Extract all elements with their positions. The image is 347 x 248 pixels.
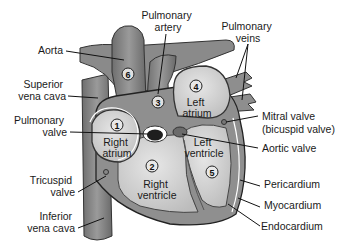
svg-text:5: 5	[209, 168, 214, 178]
mitral-valve-dot	[222, 120, 227, 125]
label-inferior-vena-cava: Inferior vena cava	[27, 210, 75, 234]
number-marker-4: 4	[190, 80, 202, 92]
label-pericardium: Pericardium	[264, 178, 320, 190]
number-marker-5: 5	[206, 166, 218, 178]
tricuspid-valve-dot	[104, 170, 109, 175]
aortic-valve-shape	[173, 127, 187, 137]
label-tricuspid-valve: Tricuspid valve	[30, 174, 75, 198]
svg-text:4: 4	[193, 82, 198, 92]
svg-text:2: 2	[149, 162, 154, 172]
label-superior-vena-cava: Superior vena cava	[18, 78, 66, 102]
label-aortic-valve: Aortic valve	[262, 142, 316, 154]
svg-text:6: 6	[125, 70, 130, 80]
right-atrium-label: Right atrium	[102, 136, 131, 159]
number-marker-3: 3	[152, 96, 164, 108]
pulmonary-valve-opening	[147, 130, 163, 141]
label-endocardium: Endocardium	[261, 220, 323, 232]
label-pulmonary-artery: Pulmonary artery	[141, 9, 194, 33]
heart-diagram: 6 3 4 1 2 5 Right atrium Right ventricle…	[0, 0, 347, 248]
label-mitral-valve: Mitral valve (bicuspid valve)	[262, 110, 335, 135]
label-aorta: Aorta	[38, 44, 63, 56]
number-marker-6: 6	[122, 68, 134, 80]
heart-illustration: 6 3 4 1 2 5 Right atrium Right ventricle…	[0, 0, 347, 248]
label-myocardium: Myocardium	[264, 199, 321, 211]
svg-text:3: 3	[155, 98, 160, 108]
number-marker-1: 1	[111, 119, 123, 131]
svg-text:1: 1	[114, 121, 119, 131]
label-pulmonary-valve: Pulmonary valve	[14, 114, 67, 138]
number-marker-2: 2	[146, 160, 158, 172]
